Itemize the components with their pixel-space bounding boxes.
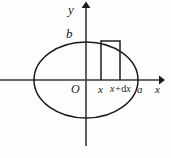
strip-right-prefix: x+ <box>110 83 121 94</box>
y-axis-label: y <box>68 3 74 16</box>
semi-minor-axis-label: b <box>66 27 73 40</box>
semi-major-axis-label: a <box>137 84 143 95</box>
strip-right-label: x+dx <box>110 84 131 94</box>
strip-left-label: x <box>98 84 103 95</box>
figure-canvas <box>0 0 171 158</box>
ellipse-integration-figure: y b O x x+dx a x <box>0 0 171 158</box>
y-axis-arrow-icon <box>82 2 91 9</box>
x-axis-label: x <box>155 84 160 95</box>
strip-right-variable: x <box>126 83 130 94</box>
origin-label: O <box>71 83 80 95</box>
